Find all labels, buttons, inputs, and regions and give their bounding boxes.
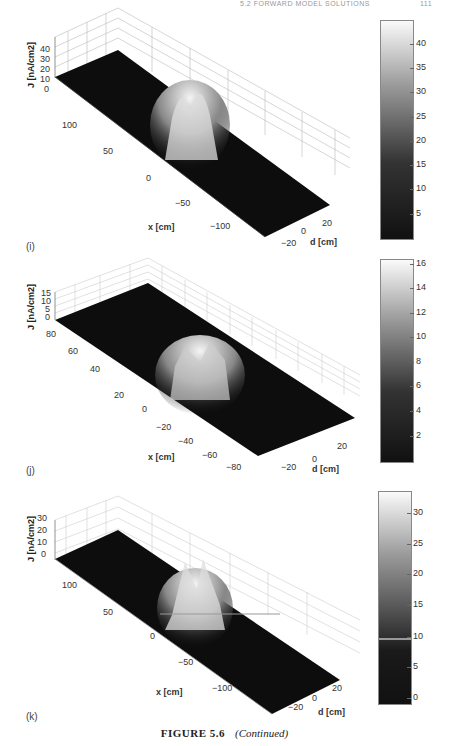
d-axis-label: d [cm]: [312, 464, 339, 474]
z-axis-label: J [nA/cm2]: [26, 284, 36, 330]
colorbar-tick: 30: [413, 507, 423, 517]
d-tick: 20: [337, 441, 347, 451]
colorbar: [378, 491, 412, 705]
x-tick: −100: [210, 221, 230, 231]
colorbar-tick: 4: [416, 405, 421, 415]
figure-note: (Continued): [235, 727, 288, 739]
colorbar-tick: 20: [413, 568, 423, 578]
x-tick: 20: [114, 390, 124, 400]
colorbar-tick: 15: [413, 599, 423, 609]
x-tick: 60: [68, 346, 78, 356]
colorbar-tick: 5: [413, 661, 418, 671]
x-tick: 50: [103, 607, 113, 617]
surface-plot-i: [0, 0, 360, 250]
colorbar-tick: 35: [416, 62, 426, 72]
colorbar-tick: 2: [416, 430, 421, 440]
x-tick: 0: [146, 173, 151, 183]
colorbar-tick: 25: [413, 538, 423, 548]
panel-tag: (j): [26, 465, 35, 476]
x-tick: −60: [202, 450, 217, 460]
d-tick: 0: [301, 226, 306, 236]
x-tick: 80: [46, 329, 56, 339]
plot-panel-k: J [nA/cm2] 30 20 10 0 100 50 0 −50 −100 …: [0, 480, 449, 725]
colorbar-tick: 10: [416, 183, 426, 193]
z-tick: 40: [40, 44, 50, 54]
colorbar-tick: 6: [416, 380, 421, 390]
x-axis-label: x [cm]: [148, 222, 175, 232]
colorbar-tick: 10: [413, 631, 423, 641]
colorbar-tick: 14: [416, 282, 426, 292]
plot-panel-i: J [nA/cm2] 40 30 20 10 0 100 50 0 −50 −1…: [0, 0, 449, 250]
colorbar-tick: 12: [416, 307, 426, 317]
z-tick: 10: [40, 74, 50, 84]
x-tick: 100: [62, 580, 77, 590]
x-tick: 0: [150, 631, 155, 641]
colorbar-tick: 16: [416, 258, 426, 268]
z-axis-label: J [nA/cm2]: [26, 42, 36, 88]
d-tick: 0: [312, 693, 317, 703]
z-tick: 10: [37, 537, 47, 547]
colorbar-tick: 8: [416, 356, 421, 366]
d-tick: 20: [332, 683, 342, 693]
x-axis-label: x [cm]: [148, 452, 175, 462]
x-tick: 100: [62, 120, 77, 130]
d-axis-label: d [cm]: [310, 237, 337, 247]
d-tick: −20: [281, 238, 296, 248]
z-tick: 20: [40, 64, 50, 74]
x-tick: −50: [175, 198, 190, 208]
x-tick: −40: [178, 436, 193, 446]
d-tick: 0: [312, 454, 317, 464]
colorbar-tick: 40: [416, 38, 426, 48]
z-tick: 20: [37, 525, 47, 535]
d-axis-label: d [cm]: [318, 707, 345, 717]
x-tick: 0: [142, 404, 147, 414]
z-tick: 0: [41, 549, 46, 559]
panel-tag: (k): [26, 711, 38, 722]
x-tick: −50: [178, 657, 193, 667]
z-axis-label: J [nA/cm2]: [26, 516, 36, 562]
colorbar-tick: 25: [416, 111, 426, 121]
colorbar-tick: 15: [416, 159, 426, 169]
x-tick: 40: [90, 364, 100, 374]
colorbar-tick: 20: [416, 135, 426, 145]
colorbar-artifact-line: [379, 638, 411, 640]
plot-panel-j: J [nA/cm2] 15 10 5 0 80 60 40 20 0 −20 −…: [0, 250, 449, 480]
d-tick: −20: [288, 702, 303, 712]
x-tick: −100: [212, 683, 232, 693]
colorbar-tick: 0: [413, 692, 418, 702]
colorbar-tick: 10: [416, 331, 426, 341]
figure-number: FIGURE 5.6: [161, 727, 225, 739]
x-tick: −20: [156, 422, 171, 432]
d-tick: 20: [322, 218, 332, 228]
d-tick: −20: [281, 462, 296, 472]
colorbar: [380, 20, 414, 240]
x-tick: −80: [226, 462, 241, 472]
colorbar: [380, 259, 414, 463]
colorbar-tick: 5: [416, 208, 421, 218]
z-tick: 0: [45, 312, 50, 322]
x-tick: 50: [103, 146, 113, 156]
z-tick: 30: [37, 513, 47, 523]
figure-caption: FIGURE 5.6(Continued): [0, 727, 449, 739]
colorbar-tick: 30: [416, 86, 426, 96]
x-axis-label: x [cm]: [156, 687, 183, 697]
z-tick: 30: [40, 54, 50, 64]
z-tick: 0: [44, 84, 49, 94]
